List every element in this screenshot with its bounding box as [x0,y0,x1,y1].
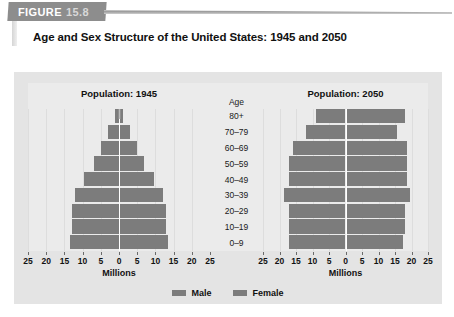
axis-tick [362,252,363,255]
age-group-label: 30–39 [210,191,263,200]
axis-tick [174,252,175,255]
legend-swatch-male [172,290,186,296]
age-group-label: 50–59 [210,160,263,169]
bar-female [119,125,130,139]
bar-male [108,125,119,139]
age-group-label: 40–49 [210,176,263,185]
axis-tick-label: 10 [78,256,87,266]
age-group-label: 60–69 [210,144,263,153]
bar-female [119,219,166,233]
axis-tick [64,252,65,255]
gridline [428,109,429,251]
x-axis-1945: 2520151050510152025 [28,252,210,262]
age-group-label: 80+ [210,112,263,121]
figure-tag-banner: FIGURE 15.8 [7,2,106,21]
bar-female [119,204,166,218]
bar-male [94,156,119,170]
bar-female [346,219,405,233]
age-group-label: 10–19 [210,223,263,232]
panel-title-1945: Population: 1945 [28,88,210,99]
figure-body: Population: 1945 Age80+70–7960–6950–5940… [14,72,442,304]
bar-female [119,188,163,202]
bar-female [346,188,410,202]
axis-tick [155,252,156,255]
figure-tag-number: 15.8 [66,6,89,18]
axis-tick [263,252,264,255]
legend-item-male: Male [172,288,211,298]
axis-tick [395,252,396,255]
bar-male [306,125,346,139]
axis-tick-label: 0 [343,256,348,266]
age-group-label: 0–9 [210,239,263,248]
chart-panel-1945: Population: 1945 [28,83,210,251]
axis-tick-label: 10 [374,256,383,266]
x-axis-label-1945: Millions [28,268,210,278]
axis-tick-label: 25 [258,256,267,266]
age-group-label: 70–79 [210,128,263,137]
pyramid-apex-stem [118,109,121,119]
axis-tick-label: 5 [327,256,332,266]
age-column-header: Age [210,98,263,107]
axis-tick [46,252,47,255]
axis-tick [379,252,380,255]
bar-male [289,172,345,186]
legend-item-female: Female [233,288,283,298]
figure-tag-word: FIGURE [18,6,62,18]
plot-area-2050 [263,109,428,251]
axis-tick-label: 20 [187,256,196,266]
axis-tick-label: 0 [117,256,122,266]
axis-tick-label: 15 [291,256,300,266]
axis-tick [280,252,281,255]
center-axis-line [346,109,347,251]
axis-tick-label: 5 [135,256,140,266]
legend-swatch-female [233,290,247,296]
axis-tick-label: 20 [41,256,50,266]
bar-male [70,235,119,249]
axis-tick-label: 25 [205,256,214,266]
axis-tick [210,252,211,255]
bar-female [119,235,168,249]
axis-tick-label: 15 [60,256,69,266]
bar-female [346,156,407,170]
axis-tick [412,252,413,255]
legend-label-male: Male [191,288,211,298]
axis-tick-label: 25 [423,256,432,266]
axis-tick-label: 20 [275,256,284,266]
bar-male [289,219,345,233]
x-axis-label-2050: Millions [263,268,428,278]
x-axis-2050: 2520151050510152025 [263,252,428,262]
bar-male [284,188,345,202]
bar-male [316,109,346,123]
bar-male [101,141,119,155]
panel-title-2050: Population: 2050 [263,88,428,99]
bar-female [346,109,405,123]
bar-male [84,172,119,186]
figure-header-tail [12,21,17,46]
figure-header-rule [104,10,452,14]
bar-male [289,204,345,218]
axis-tick [296,252,297,255]
bar-male [289,235,345,249]
axis-tick-label: 20 [407,256,416,266]
axis-tick [313,252,314,255]
age-group-label: 20–29 [210,207,263,216]
bar-female [346,172,407,186]
axis-tick [119,252,120,255]
bar-male [293,141,346,155]
bar-female [119,172,154,186]
figure-title: Age and Sex Structure of the United Stat… [33,31,347,43]
bar-female [346,141,407,155]
legend-label-female: Female [252,288,283,298]
axis-tick [428,252,429,255]
bar-male [289,156,345,170]
bar-male [75,188,119,202]
axis-tick [83,252,84,255]
bar-female [346,235,404,249]
bar-female [346,204,405,218]
age-column: Age80+70–7960–6950–5940–4930–3920–2910–1… [210,83,263,251]
figure-header: FIGURE 15.8 Age and Sex Structure of the… [0,0,454,60]
chart-panel-2050: Population: 2050 [263,83,428,251]
axis-tick [101,252,102,255]
chart-legend: Male Female [14,288,442,298]
bar-female [119,156,144,170]
